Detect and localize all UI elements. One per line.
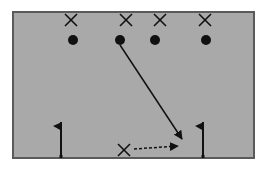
player-o4-dot-icon	[201, 35, 211, 45]
player-o1-dot-icon	[68, 35, 78, 45]
field	[13, 12, 254, 158]
play-diagram	[0, 0, 264, 170]
player-o2-dot-icon	[115, 35, 125, 45]
player-o3-dot-icon	[150, 35, 160, 45]
